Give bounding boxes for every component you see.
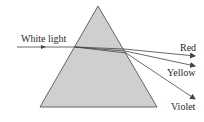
prism-dispersion-diagram: White light Red Yellow Violet [0,0,204,122]
label-violet: Violet [171,102,195,112]
label-yellow: Yellow [167,68,195,78]
label-white-light: White light [21,34,66,44]
prism [40,6,157,107]
incident-ray-arrow-icon [41,45,46,49]
label-red: Red [180,43,196,53]
exit-ray-yellow [125,51,195,66]
